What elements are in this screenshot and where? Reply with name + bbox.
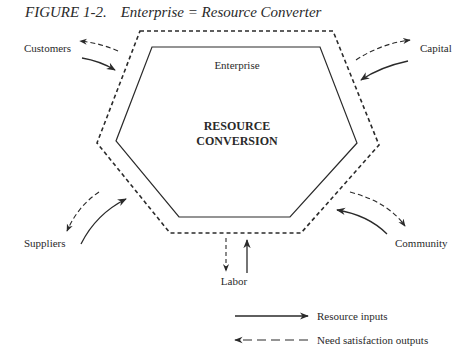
capital-output-arrow xyxy=(356,40,410,60)
capital-input-arrow xyxy=(361,61,408,80)
resource-converter-diagram: Enterprise RESOURCE CONVERSION Customers… xyxy=(0,0,472,361)
suppliers-output-arrow xyxy=(67,192,99,231)
labor-label: Labor xyxy=(221,275,248,287)
customers-output-arrow xyxy=(80,41,118,51)
enterprise-label: Enterprise xyxy=(214,59,259,71)
customers-label: Customers xyxy=(24,42,71,54)
suppliers-input-arrow xyxy=(81,199,126,244)
suppliers-label: Suppliers xyxy=(24,237,66,249)
community-label: Community xyxy=(395,237,448,249)
capital-label: Capital xyxy=(420,42,452,54)
resource-label: RESOURCE xyxy=(204,119,271,133)
conversion-label: CONVERSION xyxy=(196,134,278,148)
legend-resource-inputs: Resource inputs xyxy=(317,310,388,322)
community-input-arrow xyxy=(337,210,387,234)
customers-input-arrow xyxy=(82,58,115,70)
community-output-arrow xyxy=(350,192,405,226)
legend-need-outputs: Need satisfaction outputs xyxy=(317,334,428,346)
legend: Resource inputs Need satisfaction output… xyxy=(235,310,428,346)
